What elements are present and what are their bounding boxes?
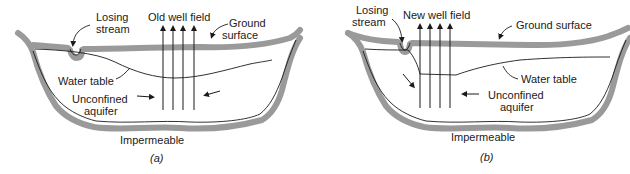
impermeable-label: Impermeable (451, 131, 515, 143)
well-field-label: New well field (403, 9, 470, 21)
ground-surface-label: Ground surface (222, 17, 269, 41)
water-table-label: Water table (521, 73, 577, 85)
impermeable-boundary (348, 33, 630, 129)
losing-stream-label: Losing stream (96, 11, 131, 35)
caption-a: (a) (150, 152, 164, 164)
caption-b: (b) (480, 151, 494, 163)
losing-stream-label: Losing stream (352, 4, 391, 28)
well-field-label: Old well field (148, 11, 210, 23)
water-table-label: Water table (58, 75, 114, 87)
panel-b: Losing stream New well field Ground surf… (348, 4, 630, 163)
flow-arrow-left-icon (206, 91, 220, 95)
impermeable-label: Impermeable (120, 134, 184, 146)
figure: Losing stream Old well field Ground surf… (0, 0, 630, 174)
aquifer-label: Unconfined aquifer (72, 93, 131, 117)
well-field-arrows (163, 28, 194, 110)
well-field-arrows (420, 26, 450, 108)
ground-surface-label: Ground surface (516, 19, 592, 31)
ground-surface-band (348, 28, 628, 52)
flow-arrow-diagonal-icon (403, 74, 413, 86)
aquifer-label: Unconfined aquifer (488, 89, 547, 113)
panel-a: Losing stream Old well field Ground surf… (18, 11, 300, 164)
flow-arrow-right-icon (137, 96, 152, 97)
